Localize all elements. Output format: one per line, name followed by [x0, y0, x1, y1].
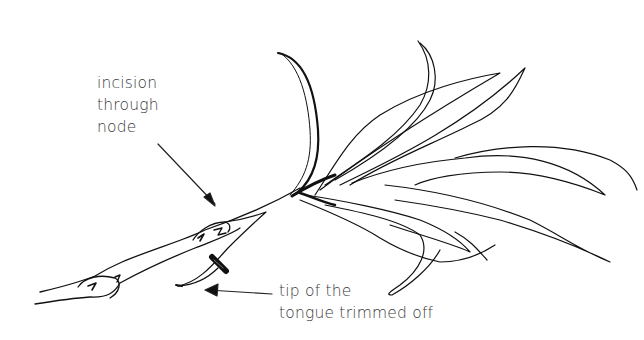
label-line: incision — [97, 72, 159, 94]
tongue — [176, 212, 266, 286]
label-line: tip of the — [279, 280, 433, 302]
leaves — [278, 41, 637, 295]
label-tip-of-tongue-trimmed: tip of the tongue trimmed off — [279, 280, 433, 324]
arrow-tip — [205, 284, 272, 296]
stem — [35, 188, 300, 304]
label-line: through — [97, 94, 159, 116]
arrow-incision — [158, 144, 215, 206]
label-line: node — [97, 116, 159, 138]
label-line: tongue trimmed off — [279, 302, 433, 324]
label-incision-through-node: incision through node — [97, 72, 159, 138]
